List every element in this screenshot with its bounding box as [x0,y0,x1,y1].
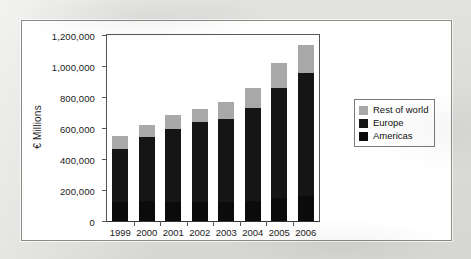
bar-segment [139,125,155,137]
bar-segment [271,88,287,197]
figure-root: € Millions 0200,000400,000600,000800,000… [0,0,471,259]
x-axis-label: 2005 [269,227,290,238]
bar-group: 2000 [139,125,155,221]
plot-area: 0200,000400,000600,000800,0001,000,0001,… [106,34,320,222]
legend-item: Americas [359,130,428,142]
bar-group: 2005 [271,63,287,221]
legend-item: Europe [359,117,428,129]
bar-group: 2006 [298,45,314,221]
x-tick-mark [134,221,135,226]
y-tick-label: 1,200,000 [52,31,95,42]
y-tick-mark: 800,000 [102,97,107,98]
bar-segment [112,149,128,202]
bar-group: 2003 [218,102,234,221]
bar-segment [245,201,261,221]
y-tick-mark: 1,000,000 [102,66,107,67]
bar-segment [139,137,155,201]
bar-segment [218,202,234,221]
bar-segment [245,88,261,108]
x-axis-label: 2006 [295,227,316,238]
x-axis-label: 2003 [216,227,237,238]
bar-segment [298,196,314,221]
y-tick-label: 600,000 [60,124,95,135]
bar-group: 1999 [112,136,128,221]
y-tick-label: 200,000 [60,186,95,197]
chart-card: € Millions 0200,000400,000600,000800,000… [21,20,452,241]
x-axis-label: 2002 [189,227,210,238]
bar-segment [112,136,128,149]
x-tick-mark [160,221,161,226]
bar-segment [165,115,181,129]
y-tick-mark: 600,000 [102,128,107,129]
legend-swatch [359,132,368,141]
bar-segment [192,122,208,202]
legend-swatch [359,106,368,115]
bar-group: 2004 [245,88,261,221]
legend-item: Rest of world [359,104,428,116]
bar-segment [218,119,234,201]
y-tick-label: 1,000,000 [52,62,95,73]
y-tick-mark: 400,000 [102,159,107,160]
bar-segment [218,102,234,119]
x-axis-label: 2001 [163,227,184,238]
y-tick-label: 0 [90,217,95,228]
y-axis-title: € Millions [32,34,46,220]
bar-segment [245,108,261,201]
legend-swatch [359,119,368,128]
bar-segment [192,109,208,122]
x-tick-mark [240,221,241,226]
x-tick-mark [293,221,294,226]
bar-segment [165,129,181,202]
y-tick-mark: 200,000 [102,190,107,191]
x-axis-label: 2000 [136,227,157,238]
bar-group: 2001 [165,115,181,221]
y-tick-label: 800,000 [60,93,95,104]
x-axis-label: 1999 [110,227,131,238]
bar-segment [192,202,208,221]
bar-segment [112,202,128,221]
bar-segment [298,73,314,196]
legend-label: Europe [373,118,404,128]
chart-legend: Rest of worldEuropeAmericas [354,99,435,147]
bar-segment [165,202,181,221]
x-tick-mark [213,221,214,226]
y-tick-mark: 0 [102,221,107,222]
y-tick-label: 400,000 [60,155,95,166]
legend-label: Rest of world [373,105,428,115]
x-axis-label: 2004 [242,227,263,238]
bar-group: 2002 [192,109,208,221]
y-tick-mark: 1,200,000 [102,35,107,36]
legend-label: Americas [373,131,413,141]
bar-segment [271,198,287,221]
x-tick-mark [266,221,267,226]
bar-segment [298,45,314,73]
x-tick-mark [187,221,188,226]
bar-segment [271,63,287,89]
bar-segment [139,201,155,221]
